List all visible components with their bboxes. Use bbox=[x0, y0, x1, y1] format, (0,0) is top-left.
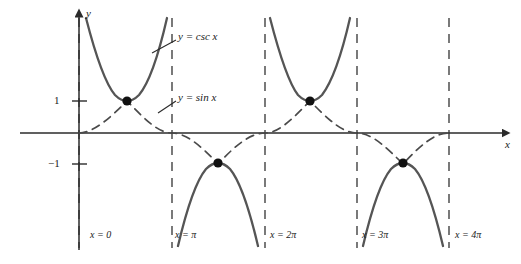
asymptote-label-x-0: x = 0 bbox=[90, 230, 111, 240]
sin-label-leader bbox=[158, 101, 176, 113]
asymptote-label-x-2pi: x = 2π bbox=[270, 230, 296, 240]
csc-branch-3 bbox=[270, 18, 350, 101]
point-max-third-period bbox=[305, 96, 314, 105]
asymptote-label-x-4pi: x = 4π bbox=[455, 230, 481, 240]
x-axis-label: x bbox=[505, 139, 510, 150]
point-max-first-period bbox=[122, 96, 131, 105]
y-tick-label-negative-one: −1 bbox=[48, 158, 60, 169]
csc-curve-label: y = csc x bbox=[178, 31, 217, 42]
sin-curve-label: y = sin x bbox=[178, 92, 216, 103]
point-min-fourth-period bbox=[398, 158, 407, 167]
graph-figure: y x 1 −1 y = csc x y = sin x x = 0 x = π… bbox=[0, 0, 521, 264]
asymptote-label-x-pi: x = π bbox=[175, 230, 196, 240]
y-axis-label: y bbox=[86, 8, 91, 19]
asymptote-label-x-3pi: x = 3π bbox=[362, 230, 388, 240]
csc-branch-1 bbox=[86, 18, 167, 101]
y-tick-label-one: 1 bbox=[54, 95, 60, 106]
graph-canvas bbox=[0, 0, 521, 264]
point-min-second-period bbox=[213, 158, 222, 167]
